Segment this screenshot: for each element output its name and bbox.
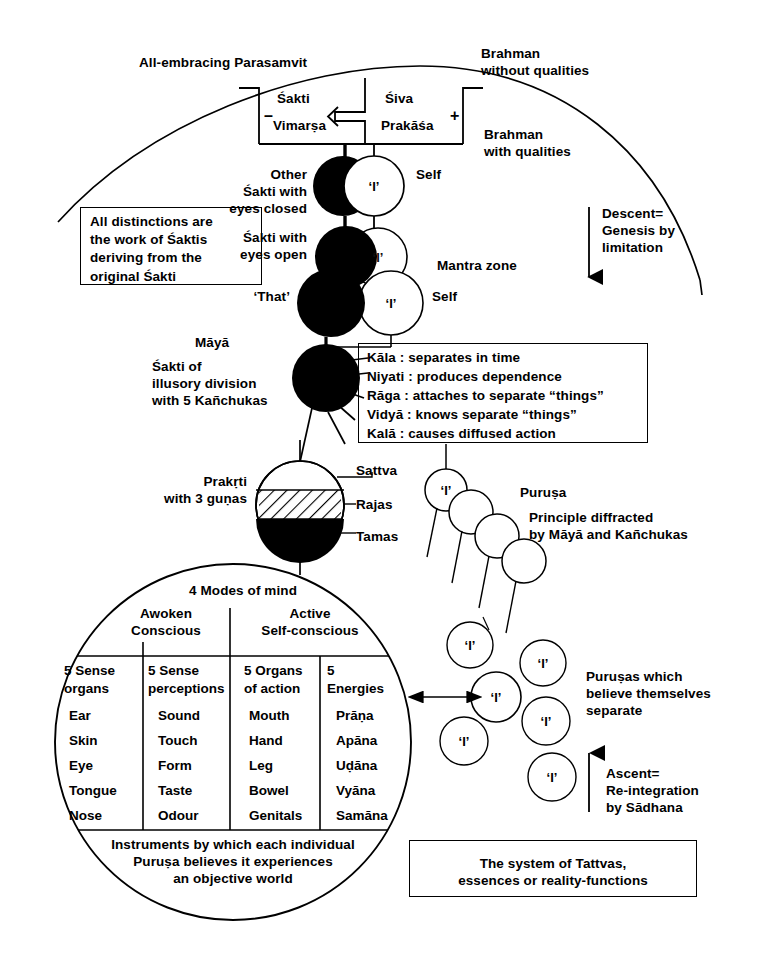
- separate-purusa-i-glyph-1: ‘I’: [450, 638, 490, 653]
- pair-1-left-label: Other Śakti with eyes closed: [175, 166, 307, 217]
- mind-col3-item-1: Mouth: [249, 707, 289, 725]
- mind-col2-item-5: Odour: [158, 807, 199, 825]
- mind-col1-item-2: Skin: [69, 732, 98, 750]
- label-purusas-separate: Puruṣas which believe themselves separat…: [586, 668, 711, 719]
- pair-1-i-glyph: ‘I’: [354, 179, 394, 194]
- mind-col-header-4: 5 Energies: [327, 662, 384, 697]
- label-purusa-desc: Principle diffracted by Māyā and Kañchuk…: [529, 509, 688, 543]
- mind-col2-item-1: Sound: [158, 707, 200, 725]
- mind-col2-item-4: Taste: [158, 782, 192, 800]
- pair-2-left-label: Śakti with eyes open: [175, 229, 307, 263]
- mind-col2-item-2: Touch: [158, 732, 198, 750]
- purusa-chain-group: [425, 444, 546, 633]
- label-prakrti: Prakṛti with 3 guṇas: [142, 473, 247, 507]
- label-brahman-with-qualities: Brahman with qualities: [484, 126, 571, 160]
- mind-col-header-2: 5 Sense perceptions: [148, 662, 225, 697]
- separate-purusa-i-glyph-6: ‘I’: [532, 770, 572, 785]
- mind-col4-item-2: Apāna: [336, 732, 377, 750]
- mind-col1-item-5: Nose: [69, 807, 102, 825]
- mind-mode-active: Active Self-conscious: [240, 605, 380, 639]
- label-purusa-title: Puruṣa: [520, 484, 566, 501]
- purusa-chain-i-glyph: ‘I’: [426, 483, 466, 498]
- label-descent: Descent= Genesis by limitation: [602, 205, 675, 256]
- mind-col4-item-3: Uḍāna: [336, 757, 377, 775]
- pair-3-right-label: Self: [432, 288, 457, 305]
- label-maya-desc: Śakti of illusory division with 5 Kañchu…: [152, 358, 268, 409]
- mind-col1-item-1: Ear: [69, 707, 91, 725]
- mind-col-header-3: 5 Organs of action: [244, 662, 303, 697]
- maya-group: [292, 344, 368, 462]
- mind-col3-item-3: Leg: [249, 757, 273, 775]
- label-guna-tamas: Tamas: [356, 528, 398, 545]
- label-maya-title: Māyā: [195, 334, 229, 351]
- mind-col4-item-1: Prāṇa: [336, 707, 374, 725]
- mind-col4-item-5: Samāna: [336, 807, 388, 825]
- mind-col4-item-4: Vyāna: [336, 782, 375, 800]
- pair-1-right-label: Self: [416, 166, 441, 183]
- mind-col1-item-3: Eye: [69, 757, 93, 775]
- label-brahman-without-qualities: Brahman without qualities: [481, 45, 589, 79]
- pair-3-i-glyph: ‘I’: [371, 296, 411, 311]
- kanchuka-item-vidya: Vidyā : knows separate “things”: [367, 406, 577, 423]
- pair-2-i-glyph: ‘I’: [358, 250, 398, 265]
- mind-col3-item-2: Hand: [249, 732, 283, 750]
- mind-col-header-1: 5 Sense organs: [64, 662, 115, 697]
- label-siva: Śiva: [385, 90, 413, 107]
- kanchuka-item-raga: Rāga : attaches to separate “things”: [367, 387, 604, 404]
- mind-col3-item-5: Genitals: [249, 807, 302, 825]
- mind-col3-item-4: Bowel: [249, 782, 289, 800]
- label-mantra-zone: Mantra zone: [437, 257, 517, 274]
- label-vimarsa: Vimarṣa: [273, 117, 326, 134]
- label-prakasa: Prakāśa: [381, 117, 434, 134]
- polarity-plus-sign: +: [450, 106, 459, 126]
- mind-circle-title: 4 Modes of mind: [153, 582, 333, 599]
- label-guna-sattva: Sattva: [356, 462, 397, 479]
- kanchuka-item-niyati: Niyati : produces dependence: [367, 368, 562, 385]
- mind-mode-awoken: Awoken Conscious: [110, 605, 222, 639]
- mind-circle-footer: Instruments by which each individual Pur…: [83, 836, 383, 887]
- label-guna-rajas: Rajas: [356, 496, 393, 513]
- system-note-text: The system of Tattvas, essences or reali…: [415, 855, 691, 889]
- label-sakti: Śakti: [277, 90, 310, 107]
- title-parasamvit: All-embracing Parasamvit: [139, 54, 307, 71]
- prakrti-group: [256, 440, 372, 575]
- diagram-canvas: All-embracing Parasamvit Brahman without…: [0, 0, 763, 959]
- pair-3-left-label: ‘That’: [195, 288, 290, 305]
- kanchuka-item-kala-action: Kalā : causes diffused action: [367, 425, 556, 442]
- separate-purusa-i-glyph-5: ‘I’: [444, 734, 484, 749]
- separate-purusa-i-glyph-3: ‘I’: [476, 690, 516, 705]
- polarity-minus-sign: –: [264, 106, 273, 126]
- label-ascent: Ascent= Re-integration by Sādhana: [606, 765, 699, 816]
- separate-purusa-i-glyph-2: ‘I’: [523, 656, 563, 671]
- separate-purusa-i-glyph-4: ‘I’: [526, 714, 566, 729]
- mind-col2-item-3: Form: [158, 757, 192, 775]
- mind-col1-item-4: Tongue: [69, 782, 117, 800]
- kanchuka-item-kala: Kāla : separates in time: [367, 349, 520, 366]
